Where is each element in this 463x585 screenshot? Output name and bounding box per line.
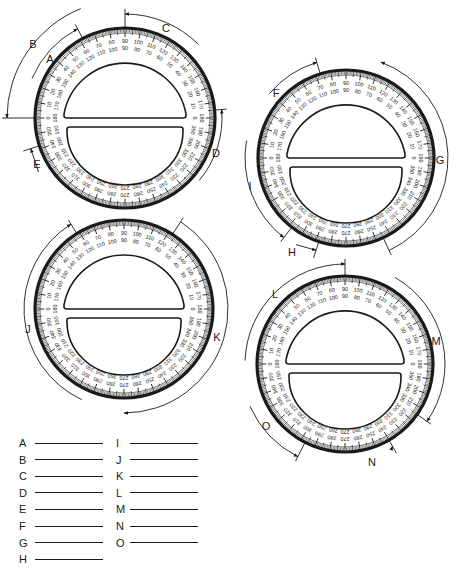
answer-row-f: F	[19, 519, 103, 533]
answer-row-m: M	[116, 502, 198, 516]
svg-text:90: 90	[121, 230, 127, 236]
answer-letter: I	[116, 437, 130, 449]
answer-letter: G	[19, 537, 33, 549]
answer-letter: L	[116, 487, 130, 499]
protractor-4: 0180101702016030150401405013060120701108…	[245, 259, 445, 468]
answer-row-h: H	[19, 552, 103, 566]
svg-text:10: 10	[46, 292, 53, 299]
svg-text:80: 80	[108, 39, 115, 46]
svg-text:80: 80	[107, 231, 114, 238]
svg-text:0: 0	[45, 308, 51, 311]
answer-letter: M	[116, 503, 130, 515]
svg-text:0: 0	[190, 308, 196, 311]
svg-text:270: 270	[120, 382, 129, 388]
answer-row-b: B	[19, 453, 103, 467]
svg-text:10: 10	[188, 294, 195, 301]
boundary-tick	[75, 24, 83, 39]
answer-blank[interactable]	[130, 542, 198, 543]
arc-label: E	[33, 158, 40, 170]
answer-letter: N	[116, 520, 130, 532]
answer-blank[interactable]	[35, 542, 103, 543]
svg-text:270: 270	[341, 436, 350, 442]
boundary-tick	[383, 237, 391, 255]
boundary-tick	[315, 58, 320, 75]
answer-blank[interactable]	[35, 492, 103, 493]
svg-text:270: 270	[342, 230, 351, 236]
svg-text:180: 180	[52, 114, 58, 123]
svg-text:0: 0	[267, 363, 273, 366]
answer-letter: D	[19, 487, 33, 499]
arc-label: L	[272, 288, 278, 300]
answer-blank[interactable]	[130, 492, 198, 493]
svg-text:180: 180	[274, 360, 280, 369]
arc-label: O	[262, 420, 271, 432]
arc-label: F	[273, 87, 280, 99]
svg-text:180: 180	[417, 360, 423, 369]
protractor-3: 0180101702016030150401405013060120701108…	[24, 218, 228, 413]
answer-letter: F	[19, 520, 33, 532]
answer-letter: A	[19, 437, 33, 449]
answer-blank[interactable]	[130, 443, 198, 444]
svg-text:0: 0	[268, 157, 274, 160]
svg-text:90: 90	[343, 80, 349, 86]
answer-blank[interactable]	[130, 459, 198, 460]
svg-text:80: 80	[132, 238, 139, 245]
answer-letter: H	[19, 553, 33, 565]
svg-text:180: 180	[418, 154, 424, 163]
protractor-2: 0180101702016030150401405013060120701108…	[245, 58, 448, 258]
svg-text:0: 0	[45, 117, 51, 120]
svg-text:180: 180	[275, 154, 281, 163]
answer-letter: K	[116, 470, 130, 482]
boundary-tick	[296, 442, 306, 462]
svg-text:270: 270	[121, 192, 130, 198]
answer-row-d: D	[19, 486, 103, 500]
answer-row-e: E	[19, 502, 103, 516]
boundary-tick	[68, 220, 77, 234]
answer-blank[interactable]	[35, 559, 103, 560]
answer-blank[interactable]	[130, 526, 198, 527]
arc-label: H	[288, 246, 296, 258]
answer-row-c: C	[19, 469, 103, 483]
arc-label: N	[368, 456, 376, 468]
answer-row-k: K	[116, 469, 198, 483]
answer-blank[interactable]	[35, 476, 103, 477]
arc-label: G	[436, 154, 445, 166]
answer-row-o: O	[116, 536, 198, 550]
svg-text:180: 180	[199, 114, 205, 123]
answer-row-n: N	[116, 519, 198, 533]
angle-arc-h: H	[288, 241, 319, 258]
svg-text:0: 0	[192, 117, 198, 120]
worksheet: 0180101702016030150401405013060120701108…	[0, 0, 463, 585]
answer-row-l: L	[116, 486, 198, 500]
svg-text:90: 90	[122, 45, 128, 51]
boundary-tick	[314, 241, 320, 258]
boundary-tick	[281, 227, 293, 242]
arc-label: J	[25, 323, 31, 335]
svg-text:80: 80	[328, 287, 335, 294]
svg-text:10: 10	[408, 349, 415, 356]
protractor-1: 0180101702016030150401405013060120701108…	[2, 9, 227, 208]
arc-label: I	[248, 180, 251, 192]
answer-row-j: J	[116, 453, 198, 467]
answer-letter: E	[19, 503, 33, 515]
answer-blank[interactable]	[130, 476, 198, 477]
arc-label: M	[431, 335, 440, 347]
svg-text:0: 0	[411, 157, 417, 160]
svg-text:90: 90	[342, 293, 348, 299]
answer-row-a: A	[19, 436, 103, 450]
answer-blank[interactable]	[35, 443, 103, 444]
svg-text:90: 90	[342, 286, 348, 292]
arc-label: D	[212, 147, 220, 159]
arc-label: C	[162, 22, 170, 34]
svg-text:90: 90	[121, 237, 127, 243]
answer-blank[interactable]	[130, 509, 198, 510]
answer-letter: B	[19, 454, 33, 466]
svg-text:80: 80	[354, 88, 361, 95]
svg-text:180: 180	[197, 305, 203, 314]
svg-text:10: 10	[268, 347, 275, 354]
svg-text:80: 80	[329, 81, 336, 88]
answer-blank[interactable]	[35, 526, 103, 527]
svg-text:90: 90	[343, 87, 349, 93]
answer-blank[interactable]	[35, 459, 103, 460]
answer-blank[interactable]	[35, 509, 103, 510]
